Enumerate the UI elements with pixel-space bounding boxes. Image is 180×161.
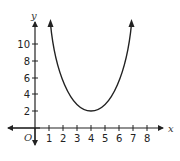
svg-text:8: 8 — [144, 133, 150, 144]
curve-arrow-left-icon — [48, 19, 54, 27]
svg-text:5: 5 — [102, 133, 108, 144]
svg-text:6: 6 — [24, 73, 30, 84]
svg-text:2: 2 — [24, 106, 30, 117]
svg-text:8: 8 — [24, 56, 30, 67]
curve-arrow-right-icon — [129, 19, 135, 27]
svg-text:7: 7 — [130, 133, 136, 144]
svg-text:4: 4 — [88, 133, 94, 144]
y-axis-label: y — [30, 10, 37, 21]
svg-text:3: 3 — [74, 133, 80, 144]
svg-text:6: 6 — [116, 133, 122, 144]
svg-text:4: 4 — [24, 89, 30, 100]
svg-text:2: 2 — [60, 133, 66, 144]
y-tick-labels: 2 4 6 8 10 — [17, 39, 30, 117]
svg-text:10: 10 — [17, 39, 30, 50]
svg-text:1: 1 — [46, 133, 52, 144]
x-tick-labels: 1 2 3 4 5 6 7 8 — [46, 133, 150, 144]
x-axis-label: x — [168, 123, 174, 134]
parabola-curve — [51, 24, 132, 111]
origin-label: O — [24, 132, 32, 143]
parabola-graph: x y O 1 2 3 4 5 6 7 8 2 4 6 8 10 — [0, 0, 180, 161]
